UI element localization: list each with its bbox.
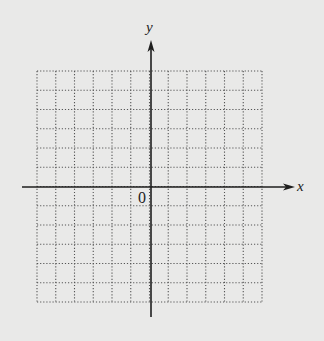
x-axis-label: x (297, 179, 304, 194)
origin-label: 0 (138, 190, 146, 206)
coordinate-plane (0, 0, 324, 341)
y-axis-label: y (146, 20, 153, 35)
axes (22, 40, 295, 317)
